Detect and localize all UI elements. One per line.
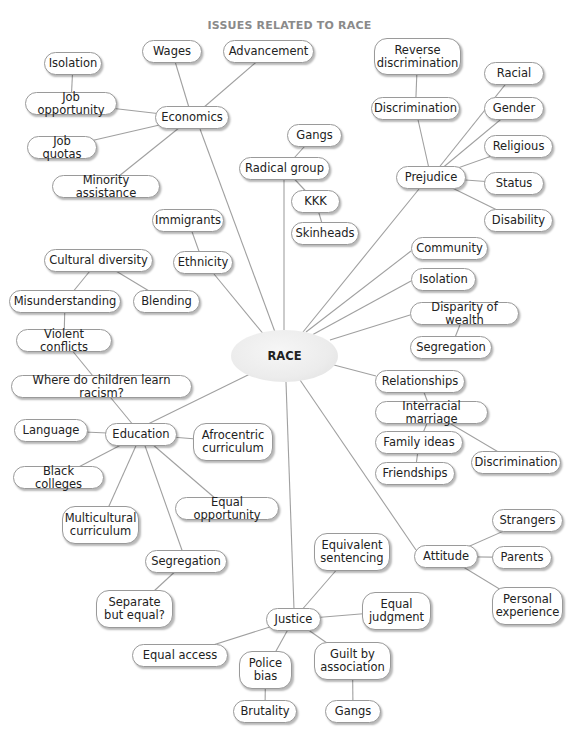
node-gender: Gender: [484, 97, 544, 120]
node-misunderstanding: Misunderstanding: [9, 290, 121, 313]
node-radical-group: Radical group: [239, 157, 330, 180]
node-personal-experience: Personal experience: [492, 587, 563, 625]
node-wages: Wages: [142, 40, 202, 63]
node-guilt-by-association: Guilt by association: [314, 642, 391, 680]
node-disparity-of-wealth: Disparity of wealth: [410, 302, 519, 325]
node-justice: Justice: [266, 608, 321, 631]
node-discrimination1: Discrimination: [371, 97, 460, 120]
node-afrocentric-curriculum: Afrocentric curriculum: [193, 423, 273, 461]
node-ethnicity: Ethnicity: [173, 251, 233, 274]
node-black-colleges: Black colleges: [13, 466, 104, 489]
node-disability: Disability: [484, 209, 553, 232]
node-prejudice: Prejudice: [396, 166, 466, 189]
node-attitude: Attitude: [414, 545, 478, 568]
node-violent-conflicts: Violent conflicts: [16, 329, 112, 352]
node-skinheads: Skinheads: [291, 222, 359, 245]
node-where-children: Where do children learn racism?: [11, 375, 192, 398]
node-kkk: KKK: [291, 190, 340, 213]
node-brutality: Brutality: [233, 700, 297, 723]
edge-prejudice-racial: [431, 74, 514, 178]
node-gangs1: Gangs: [287, 124, 342, 147]
node-education: Education: [105, 423, 177, 446]
edge-race-relationships: [334, 365, 376, 376]
node-isolation2: Isolation: [411, 268, 476, 291]
node-reverse-discrimination: Reverse discrimination: [374, 38, 461, 75]
center-node-race: RACE: [231, 330, 338, 382]
node-community: Community: [411, 237, 488, 260]
node-equal-access: Equal access: [132, 644, 228, 667]
node-segregation2: Segregation: [145, 550, 227, 573]
node-strangers: Strangers: [492, 509, 563, 532]
node-family-ideas: Family ideas: [375, 431, 463, 454]
node-multicultural-curriculum: Multicultural curriculum: [62, 506, 139, 544]
mind-map-canvas: ISSUES RELATED TO RACE RACE WagesAdvance…: [0, 0, 579, 737]
node-discrimination2: Discrimination: [471, 451, 561, 474]
edge-race-justice: [286, 382, 294, 609]
node-economics: Economics: [155, 106, 229, 129]
node-job-opportunity: Job opportunity: [25, 92, 117, 115]
node-equal-opportunity: Equal opportunity: [175, 497, 279, 520]
node-minority-assistance: Minority assistance: [52, 175, 160, 198]
node-blending: Blending: [133, 290, 200, 313]
node-friendships: Friendships: [375, 462, 455, 485]
node-status: Status: [484, 172, 544, 195]
node-parents: Parents: [492, 546, 552, 569]
node-relationships: Relationships: [375, 370, 465, 393]
node-interracial-marriage: Interracial marriage: [375, 401, 488, 424]
node-separate-but-equal: Separate but equal?: [96, 590, 173, 628]
node-police-bias: Police bias: [239, 651, 292, 689]
node-equal-judgment: Equal judgment: [362, 592, 431, 630]
node-racial: Racial: [484, 62, 544, 85]
node-isolation1: Isolation: [44, 52, 102, 75]
node-gangs2: Gangs: [325, 700, 381, 723]
node-immigrants: Immigrants: [152, 209, 224, 232]
node-religious: Religious: [484, 135, 553, 158]
node-cultural-diversity: Cultural diversity: [44, 249, 153, 272]
node-language: Language: [14, 419, 88, 442]
node-equivalent-sentencing: Equivalent sentencing: [314, 533, 390, 571]
node-job-quotas: Job quotas: [27, 136, 97, 159]
node-segregation1: Segregation: [410, 336, 492, 359]
node-advancement: Advancement: [223, 40, 314, 63]
